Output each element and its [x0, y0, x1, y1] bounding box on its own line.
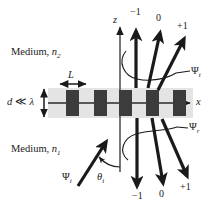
reflected-beam-label: Ψr: [189, 122, 199, 135]
grating-bar: [119, 90, 132, 116]
reflected-order-minus1-label: −1: [132, 191, 143, 201]
transmitted-polarization-arc: [122, 51, 176, 80]
x-axis-label: x: [196, 97, 201, 108]
grating-bar: [173, 90, 186, 116]
incident-beam-label: Ψi: [62, 172, 72, 185]
reflected-order-plus1-label: +1: [180, 182, 191, 192]
transmitted-order-0-label: 0: [156, 13, 161, 23]
reflected-arc-leader: [177, 127, 188, 128]
incidence-angle-label: θi: [97, 172, 104, 185]
transmitted-order-minus1-label: −1: [130, 7, 141, 17]
grating-bar: [146, 90, 159, 116]
medium-lower-label: Medium, n1: [11, 144, 61, 157]
diffraction-grating-figure: Medium, n2 Medium, n1 L d ≪ λ x z −1 0 +…: [0, 0, 215, 215]
period-label: L: [68, 70, 74, 81]
reflected-order-0-arrow: [152, 118, 163, 183]
reflected-order-arrows: [137, 118, 187, 186]
medium-upper-label: Medium, n2: [11, 47, 61, 60]
transmitted-order-plus1-label: +1: [177, 21, 188, 31]
transmitted-arc-leader: [176, 71, 190, 73]
reflected-order-0-label: 0: [159, 189, 164, 199]
thickness-label: d ≪ λ: [7, 97, 34, 108]
grating-bar: [66, 90, 79, 116]
transmitted-beam-label: Ψt: [191, 66, 201, 79]
incidence-angle-arc: [99, 157, 120, 167]
grating-bar: [94, 90, 107, 116]
transmitted-order-plus1-arrow: [158, 39, 184, 90]
z-axis-label: z: [113, 15, 117, 26]
transmitted-order-arrows: [136, 31, 184, 90]
